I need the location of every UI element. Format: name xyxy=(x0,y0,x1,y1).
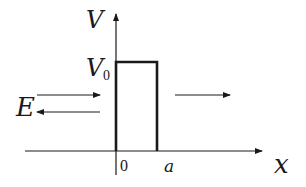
origin-label: 0 xyxy=(120,157,128,174)
potential-barrier xyxy=(116,62,157,151)
energy-label: E xyxy=(15,92,35,122)
barrier-width-label: a xyxy=(164,156,174,176)
x-axis-label: x xyxy=(274,149,289,179)
barrier-height-subscript: 0 xyxy=(103,68,110,83)
potential-barrier-diagram: V V 0 E 0 a x xyxy=(0,0,306,187)
y-axis-label: V xyxy=(86,6,106,34)
